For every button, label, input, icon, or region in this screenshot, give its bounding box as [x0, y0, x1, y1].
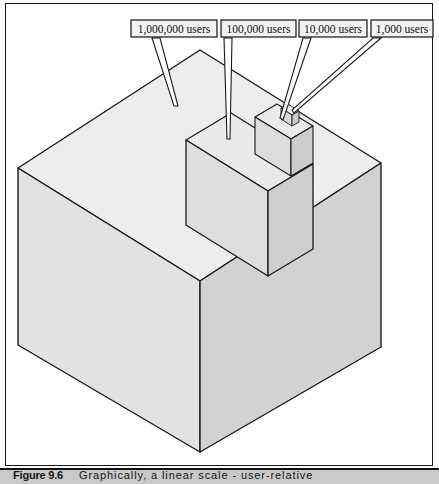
figure-caption-label: Figure 9.6	[13, 470, 63, 481]
figure-caption: Figure 9.6 Graphically, a linear scale -…	[13, 470, 313, 481]
cube-diagram: 1,000,000 users 100,000 users 10,000 use…	[0, 0, 439, 484]
callout-1000000-label: 1,000,000 users	[138, 23, 211, 36]
cube-1000000-solid	[18, 50, 381, 452]
figure-container: 1,000,000 users 100,000 users 10,000 use…	[0, 0, 439, 484]
callout-100000-label: 100,000 users	[227, 23, 291, 36]
callout-1000-label: 1,000 users	[376, 23, 429, 36]
callout-100000[interactable]: 100,000 users	[221, 20, 296, 37]
figure-caption-text: Graphically, a linear scale - user-relat…	[79, 470, 313, 481]
callout-1000000[interactable]: 1,000,000 users	[131, 20, 217, 37]
figure-caption-band: Figure 9.6 Graphically, a linear scale -…	[0, 470, 439, 484]
callout-1000[interactable]: 1,000 users	[371, 20, 433, 37]
callout-10000[interactable]: 10,000 users	[299, 20, 367, 37]
callout-10000-label: 10,000 users	[304, 23, 363, 36]
